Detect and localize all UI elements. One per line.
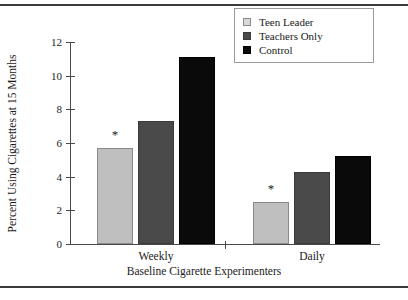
y-axis-title: Percent Using Cigarettes at 15 Months [6,42,24,245]
legend-item-teen-leader: Teen Leader [243,15,365,28]
y-axis-tick-label: 8 [57,104,63,115]
bar [253,202,289,244]
x-axis-group-label: Weekly [139,250,174,262]
y-axis-tick [66,109,75,110]
bar [179,57,215,244]
bar [138,121,174,244]
legend-item-teachers-only: Teachers Only [243,29,365,42]
x-axis-title: Baseline Cigarette Experimenters [0,265,408,277]
y-axis-tick-label: 2 [57,205,63,216]
top-divider-rule [0,4,408,6]
legend-item-control: Control [243,43,365,56]
y-axis-tick-label: 4 [57,171,63,182]
y-axis-tick-label: 10 [51,70,62,81]
legend-item-label: Control [259,44,293,56]
y-axis-tick-label: 0 [57,239,63,250]
legend-swatch-icon [243,46,251,54]
y-axis-tick [66,244,75,245]
figure-container: Percent Using Cigarettes at 15 Months 02… [0,0,408,300]
legend-swatch-icon [243,18,251,26]
bar [97,148,133,244]
y-axis-tick-label: 6 [57,138,63,149]
plot-area: 024681012 ** WeeklyDaily [70,42,380,245]
legend-item-label: Teen Leader [259,16,314,28]
x-axis-center-tick [225,241,226,249]
significance-asterisk: * [268,182,275,195]
y-axis-tick [66,177,75,178]
bar [294,172,330,244]
bar [335,156,371,244]
y-axis-tick [66,143,75,144]
significance-asterisk: * [112,128,119,141]
bottom-divider-rule [0,286,408,288]
chart-legend: Teen Leader Teachers Only Control [234,8,374,63]
y-axis-tick-label: 12 [51,37,62,48]
legend-item-label: Teachers Only [259,30,323,42]
y-axis-tick [66,210,75,211]
legend-swatch-icon [243,32,251,40]
y-axis-tick [66,76,75,77]
x-axis-group-label: Daily [299,250,325,262]
y-axis-tick [66,42,75,43]
